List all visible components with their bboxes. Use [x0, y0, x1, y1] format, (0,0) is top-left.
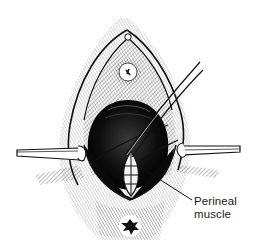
label-line-2: muscle	[194, 208, 237, 221]
label-line-1: Perineal	[194, 195, 237, 208]
perineal-muscle-label: Perineal muscle	[194, 195, 237, 221]
left-retractor	[17, 146, 86, 161]
urethral-meatus	[115, 59, 141, 85]
anus	[119, 215, 141, 237]
clitoris	[125, 34, 131, 40]
